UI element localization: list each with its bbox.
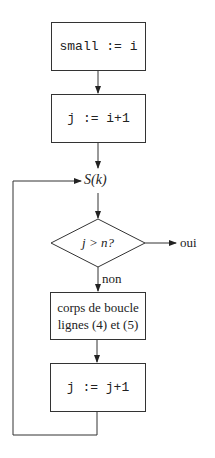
no-label: non <box>102 271 122 287</box>
invariant-text: S(k) <box>84 172 107 187</box>
increment-box: j := j+1 <box>50 363 146 412</box>
loop-body-line2: lignes (4) et (5) <box>58 316 139 333</box>
no-text: non <box>102 271 122 286</box>
init-small-box: small := i <box>51 22 146 71</box>
invariant-label: S(k) <box>84 172 107 188</box>
condition-label: j > n? <box>77 235 119 251</box>
loop-body-line1: corps de boucle <box>57 299 139 316</box>
yes-text: oui <box>180 235 197 250</box>
flowchart-diagram: small := i j := i+1 S(k) j > n? oui non … <box>0 0 215 458</box>
init-small-text: small := i <box>59 39 137 54</box>
condition-text: j > n? <box>82 235 114 250</box>
init-j-box: j := i+1 <box>51 94 146 143</box>
init-j-text: j := i+1 <box>67 111 129 126</box>
loop-body-box: corps de boucle lignes (4) et (5) <box>50 292 146 340</box>
yes-label: oui <box>180 235 197 251</box>
increment-text: j := j+1 <box>67 380 129 395</box>
